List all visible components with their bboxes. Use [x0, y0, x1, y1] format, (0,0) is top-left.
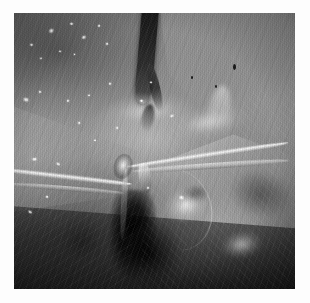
vignette-overlay: [14, 13, 295, 289]
page-root: [0, 0, 310, 303]
surgical-photograph: [14, 13, 295, 289]
